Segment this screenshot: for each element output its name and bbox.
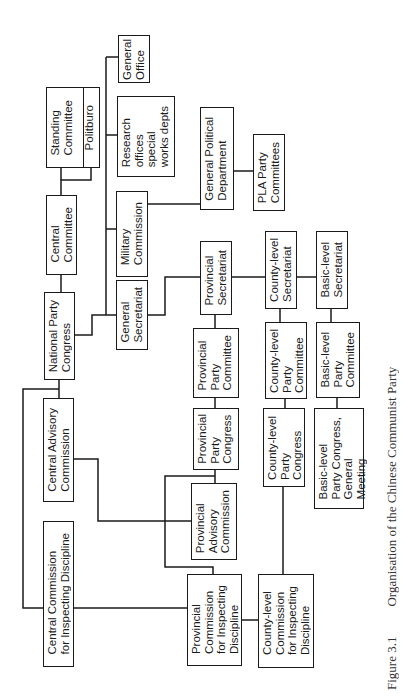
politburo-label: Politburo xyxy=(81,101,99,154)
national-party-congress-label: National Party Congress xyxy=(45,296,74,376)
standing-committee-label: Standing Committee xyxy=(47,96,81,160)
county-commission-discipline-box: County-level Commission for Inspecting D… xyxy=(258,574,314,668)
provincial-party-congress-box: Provincial Party Congress xyxy=(193,408,239,470)
research-offices-label: Research offices special works depts xyxy=(118,102,172,171)
general-office-box: General Office xyxy=(118,35,150,83)
provincial-party-congress-label: Provincial Party Congress xyxy=(194,410,236,468)
county-secretariat-label: County-level Secretariat xyxy=(266,234,295,306)
basic-secretariat-label: Basic-level Secretariat xyxy=(317,238,346,302)
basic-party-congress-label: Basic-level Party Congress, General Meet… xyxy=(315,413,369,503)
basic-party-committee-label: Basic-level Party Committee xyxy=(317,328,359,392)
general-office-label: General Office xyxy=(119,35,148,84)
basic-party-committee-box: Basic-level Party Committee xyxy=(316,322,360,398)
military-commission-box: Military Commission xyxy=(116,191,148,277)
military-commission-label: Military Commission xyxy=(117,198,146,269)
county-party-committee-box: County-level Party Committee xyxy=(265,322,307,399)
basic-secretariat-box: Basic-level Secretariat xyxy=(316,231,348,309)
county-party-congress-label: County-level Party Congress xyxy=(264,412,306,484)
county-party-congress-box: County-level Party Congress xyxy=(263,408,305,487)
figure-title: Organisation of the Chinese Communist Pa… xyxy=(384,367,399,607)
central-committee-label: Central Committee xyxy=(47,203,76,267)
figure-caption: Figure 3.1Organisation of the Chinese Co… xyxy=(384,312,400,690)
county-commission-discipline-label: County-level Commission for Inspecting D… xyxy=(259,582,313,659)
pla-party-committees-box: PLA Party Committees xyxy=(253,134,285,211)
provincial-party-committee-box: Provincial Party Committee xyxy=(193,328,239,398)
provincial-advisory-commission-box: Provincial Advisory Commission xyxy=(191,483,237,560)
general-secretariat-box: General Secretariat xyxy=(116,280,148,350)
provincial-advisory-commission-label: Provincial Advisory Commission xyxy=(192,486,234,557)
basic-party-congress-box: Basic-level Party Congress, General Meet… xyxy=(314,408,364,509)
research-offices-box: Research offices special works depts xyxy=(117,96,175,177)
central-commission-discipline-label: Central Commission for Inspecting Discip… xyxy=(44,529,73,658)
national-party-congress-box: National Party Congress xyxy=(44,292,75,380)
central-committee-box: Central Committee xyxy=(46,195,77,275)
standing-committee-politburo-box: Standing Committee Politburo xyxy=(46,87,100,168)
provincial-commission-discipline-label: Provincial Commission for Inspecting Dis… xyxy=(188,581,242,658)
central-advisory-commission-box: Central Advisory Commission xyxy=(43,398,74,502)
figure-number: Figure 3.1 xyxy=(384,637,399,690)
provincial-secretariat-label: Provincial Secretariat xyxy=(201,246,230,310)
org-chart-diagram: Standing Committee Politburo Central Com… xyxy=(0,0,409,699)
general-political-department-label: General Political Department xyxy=(201,113,230,205)
general-political-department-box: General Political Department xyxy=(200,107,234,210)
central-commission-discipline-box: Central Commission for Inspecting Discip… xyxy=(43,521,74,667)
pla-party-committees-label: PLA Party Committees xyxy=(254,138,283,207)
provincial-secretariat-box: Provincial Secretariat xyxy=(200,241,232,315)
county-secretariat-box: County-level Secretariat xyxy=(265,231,297,309)
provincial-party-committee-label: Provincial Party Committee xyxy=(194,331,236,395)
central-advisory-commission-label: Central Advisory Commission xyxy=(44,404,73,496)
general-secretariat-label: General Secretariat xyxy=(117,283,146,347)
county-party-committee-label: County-level Party Committee xyxy=(266,325,308,397)
provincial-commission-discipline-box: Provincial Commission for Inspecting Dis… xyxy=(187,574,242,666)
